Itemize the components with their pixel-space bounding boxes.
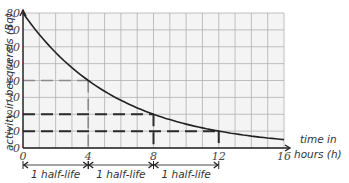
x-tick-label: 16 [277, 150, 291, 163]
half-life-label: 1 half-life [161, 168, 210, 180]
x-axis-label-line2: hours (h) [294, 148, 342, 160]
x-axis-label-line1: time in [300, 133, 337, 145]
half-life-label: 1 half-life [31, 168, 80, 180]
half-life-annotations: 1 half-life1 half-life1 half-life [23, 161, 219, 180]
half-life-label: 1 half-life [96, 168, 145, 180]
x-tick-labels: 0481216 [20, 150, 292, 163]
decay-chart: 01020304050607080 0481216 1 half-life1 h… [0, 0, 349, 183]
y-axis-label: activity in becquerels (Bq) [3, 13, 15, 151]
